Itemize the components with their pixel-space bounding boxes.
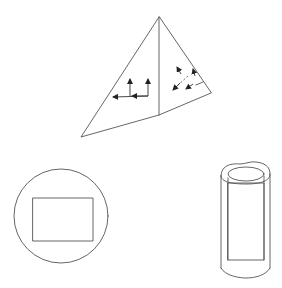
pyramid-outline [81, 17, 211, 137]
arrow-up-edge [193, 69, 195, 76]
outer-circle [14, 169, 108, 263]
arrow-down-left-1 [173, 83, 180, 90]
cylinder-inner-rect [228, 183, 264, 260]
diagram-canvas [0, 0, 282, 288]
left-face-arrows [113, 79, 148, 97]
circle-figure [14, 169, 108, 263]
cylinder-bottom [221, 268, 270, 278]
right-face-arrows [173, 67, 203, 90]
arrow-up-dashed [177, 67, 181, 74]
edge-tick [196, 82, 203, 85]
cylinder-figure [221, 162, 270, 278]
inner-rectangle [33, 198, 93, 241]
arrow-down-left-2 [186, 84, 193, 89]
pyramid-figure [81, 17, 211, 137]
cylinder-inner-ellipse [228, 167, 264, 181]
